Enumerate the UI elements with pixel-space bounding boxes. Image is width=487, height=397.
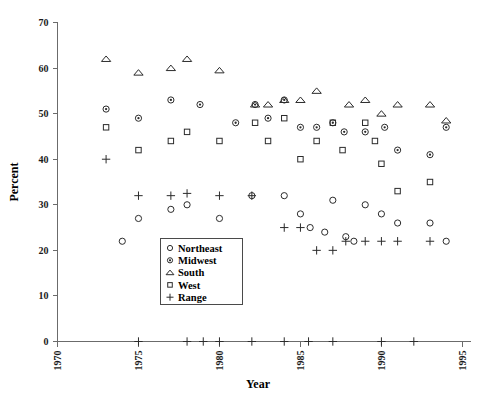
marker-square [282,115,287,120]
marker-plus [329,246,337,254]
marker-center-dot [384,126,386,128]
marker-plus [393,237,401,245]
marker-plus [410,337,418,345]
marker-center-dot [332,122,334,124]
y-axis: 010203040506070 [39,17,58,347]
series-northeast [119,193,449,245]
marker-plus [248,337,256,345]
marker-open-circle [330,197,336,203]
marker-triangle [361,97,370,102]
marker-center-dot [169,259,171,261]
legend-label-range: Range [178,292,207,303]
marker-center-dot [105,108,107,110]
x-axis: 197019751980198519901995 [52,342,471,371]
marker-plus [312,246,320,254]
legend-label-south: South [178,267,204,278]
y-tick-label: 40 [39,154,49,165]
marker-open-circle [168,206,174,212]
marker-center-dot [429,154,431,156]
marker-plus [304,337,312,345]
marker-open-circle [351,238,357,244]
marker-triangle [182,56,191,61]
marker-triangle [442,117,451,122]
marker-center-dot [315,126,317,128]
marker-triangle [215,67,224,72]
x-tick-label: 1985 [295,351,306,371]
marker-square [395,188,400,193]
marker-center-dot [254,103,256,105]
marker-open-circle [216,215,222,221]
marker-triangle [344,102,353,107]
x-tick-label: 1990 [376,351,387,371]
x-tick-label: 1980 [214,351,225,371]
marker-square [136,147,141,152]
marker-square [372,138,377,143]
marker-open-circle [281,193,287,199]
marker-plus [215,191,223,199]
marker-plus [134,191,142,199]
marker-square [363,120,368,125]
marker-open-circle [307,224,313,230]
marker-triangle [377,111,386,116]
marker-plus [102,155,110,163]
marker-plus [280,223,288,231]
y-tick-label: 0 [44,336,49,347]
marker-plus [134,337,142,345]
scatter-chart: 010203040506070 197019751980198519901995… [0,0,487,397]
marker-square [427,179,432,184]
marker-center-dot [364,131,366,133]
chart-legend: NortheastMidwestSouthWestRange [160,238,242,304]
series-range [102,155,434,346]
marker-square [298,157,303,162]
marker-open-circle [322,229,328,235]
marker-square [379,161,384,166]
x-axis-title: Year [246,377,271,391]
marker-triangle [263,102,272,107]
marker-open-circle [119,238,125,244]
marker-plus [167,191,175,199]
marker-plus [183,189,191,197]
marker-square [184,129,189,134]
marker-center-dot [283,99,285,101]
series-west [103,115,432,193]
series-south [101,56,450,123]
marker-square [252,120,257,125]
marker-triangle [166,65,175,70]
y-tick-label: 60 [39,63,49,74]
marker-triangle [393,102,402,107]
marker-plus [280,337,288,345]
marker-center-dot [170,99,172,101]
marker-open-circle [362,202,368,208]
marker-plus [426,237,434,245]
marker-open-circle [297,211,303,217]
marker-square [168,138,173,143]
marker-plus [199,337,207,345]
marker-plus [296,223,304,231]
marker-triangle [425,102,434,107]
y-tick-label: 10 [39,290,49,301]
x-tick-label: 1995 [457,351,468,371]
marker-plus [377,237,385,245]
legend-label-west: West [178,280,201,291]
marker-triangle [296,97,305,102]
y-tick-label: 30 [39,199,49,210]
marker-center-dot [199,103,201,105]
marker-open-circle [395,220,401,226]
marker-center-dot [343,131,345,133]
marker-center-dot [235,122,237,124]
marker-plus [361,237,369,245]
x-tick-label: 1975 [133,351,144,371]
legend-label-northeast: Northeast [178,243,223,254]
marker-square [314,138,319,143]
marker-square [103,125,108,130]
marker-triangle [134,70,143,75]
marker-triangle [101,56,110,61]
marker-open-circle [378,211,384,217]
marker-open-circle [184,202,190,208]
marker-square [340,147,345,152]
legend-label-midwest: Midwest [178,255,217,266]
marker-plus [215,337,223,345]
plot-canvas: 010203040506070 197019751980198519901995… [0,0,487,397]
marker-center-dot [445,126,447,128]
marker-triangle [312,88,321,93]
